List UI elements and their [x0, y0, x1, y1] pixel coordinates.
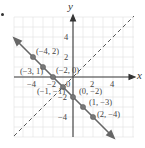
point-marker [30, 54, 35, 59]
y-tick-label: 2 [64, 53, 68, 62]
point-label: (−4, 2) [36, 47, 59, 56]
point-marker [90, 114, 95, 119]
point-label: (−1, −1) [37, 87, 65, 96]
point-label: (−3, 1) [20, 67, 43, 76]
y-axis-label: y [68, 1, 73, 12]
x-axis-label: x [137, 70, 142, 81]
point-label: (2, −4) [97, 110, 120, 119]
x-tick-label: 0 [66, 80, 70, 89]
point-label: (−2, 0) [56, 66, 79, 75]
point-marker [70, 94, 75, 99]
x-tick-label: 4 [110, 80, 114, 89]
coordinate-graph: y x −4 −2 0 2 4 4 2 −2 −4 (−4, 2) (−3, 1… [0, 0, 145, 148]
point-label: (1, −3) [89, 98, 112, 107]
y-tick-label: 4 [64, 33, 68, 42]
point-label: (0, −2) [79, 87, 102, 96]
point-marker [80, 104, 85, 109]
y-tick-label: −4 [58, 113, 67, 122]
x-tick-label: −4 [27, 80, 36, 89]
